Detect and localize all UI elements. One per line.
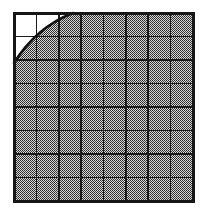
grid-arc-figure <box>0 0 206 214</box>
figure-container <box>0 0 206 214</box>
